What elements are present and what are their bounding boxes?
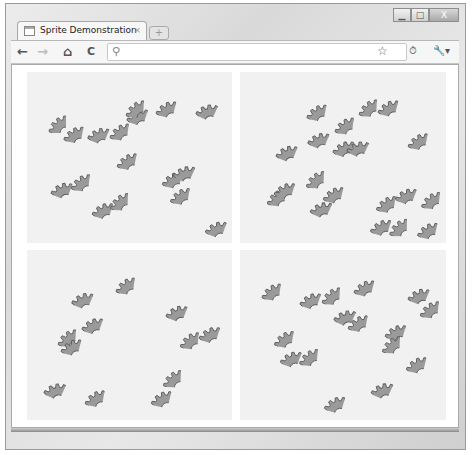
back-arrow-icon[interactable]: ← <box>17 44 28 59</box>
gear-sprite-icon <box>178 74 226 122</box>
search-icon: ⚲ <box>112 45 120 58</box>
bookmark-star-icon[interactable]: ☆ <box>377 44 388 58</box>
gear-sprite-icon <box>66 366 108 408</box>
reload-icon[interactable]: C <box>87 45 95 58</box>
home-icon[interactable]: ⌂ <box>63 44 72 59</box>
forward-arrow-icon[interactable]: → <box>37 44 48 59</box>
sprite-panel-bottom-left <box>27 250 232 420</box>
gear-sprite-icon <box>151 164 192 205</box>
gear-sprite-icon <box>243 261 283 301</box>
address-bar[interactable]: ⚲ <box>107 43 407 61</box>
new-tab-button[interactable]: + <box>149 26 169 40</box>
window-controls: ▁ □ X <box>393 8 459 22</box>
minimize-button[interactable]: ▁ <box>393 8 411 22</box>
gear-sprite-icon <box>306 370 351 415</box>
window-bottom-edge <box>11 428 459 432</box>
close-window-button[interactable]: X <box>429 8 459 22</box>
wrench-menu-icon[interactable]: 🔧▾ <box>433 45 450 56</box>
extension-icon[interactable]: ⏱ <box>409 45 417 57</box>
sprite-panel-top-left <box>27 72 232 243</box>
page-icon <box>24 26 35 36</box>
gear-sprite-icon <box>399 198 442 241</box>
gear-sprite-icon <box>280 327 319 366</box>
gear-sprite-icon <box>187 193 232 239</box>
tab-sprite-demonstration[interactable]: Sprite Demonstration × <box>17 21 147 41</box>
browser-toolbar: ← → ⌂ C ⚲ ☆ ⏱ 🔧▾ <box>11 40 459 64</box>
maximize-button[interactable]: □ <box>411 8 429 22</box>
sprite-panel-top-right <box>240 72 446 243</box>
gear-sprite-icon <box>91 173 128 210</box>
tab-title: Sprite Demonstration <box>40 25 137 35</box>
gear-sprite-icon <box>132 365 175 408</box>
gear-sprite-icon <box>97 255 137 295</box>
close-tab-icon[interactable]: × <box>133 25 141 35</box>
gear-sprite-icon <box>389 109 431 151</box>
gear-sprite-icon <box>98 129 140 171</box>
gear-sprite-icon <box>42 313 86 357</box>
sprite-panel-bottom-right <box>240 250 446 420</box>
